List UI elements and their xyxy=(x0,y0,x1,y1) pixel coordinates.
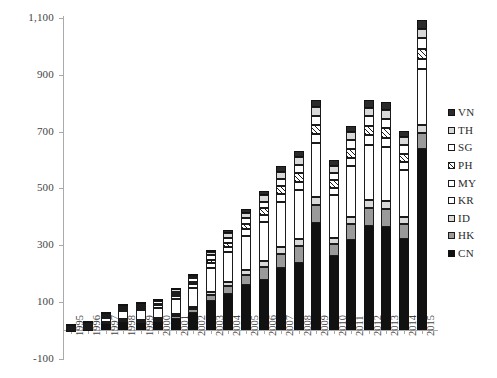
bar-segment-kr xyxy=(381,147,391,201)
bar-segment-ph xyxy=(241,224,251,229)
bar-segment-th xyxy=(294,157,304,165)
legend-item-hk[interactable]: HK xyxy=(448,227,497,245)
bar-column xyxy=(83,0,93,378)
bar-segment-th xyxy=(206,252,216,256)
bar-segment-hk xyxy=(206,295,216,301)
bar-segment-kr xyxy=(311,143,321,197)
x-tick-label: 2015 xyxy=(426,296,436,336)
bar-segment-id xyxy=(241,270,251,275)
bar-segment-hk xyxy=(241,275,251,285)
bar-segment-th xyxy=(311,107,321,116)
bar-segment-id xyxy=(381,201,391,209)
bar-segment-ph xyxy=(364,126,374,135)
bar-segment-vn xyxy=(171,288,181,290)
legend-item-sg[interactable]: SG xyxy=(448,139,497,157)
y-tick-mark xyxy=(59,18,64,19)
bar-segment-ph xyxy=(399,154,409,162)
bar-segment-id xyxy=(364,200,374,208)
bar-segment-th xyxy=(241,213,251,218)
legend-item-id[interactable]: ID xyxy=(448,210,497,228)
legend-item-kr[interactable]: KR xyxy=(448,192,497,210)
bar-column xyxy=(381,0,391,378)
bar-segment-kr xyxy=(171,299,181,314)
bar-segment-sg xyxy=(329,173,339,181)
bar-segment-cn xyxy=(136,323,146,330)
bar-segment-kr xyxy=(206,268,216,292)
y-tick-mark xyxy=(59,132,64,133)
bar-segment-my xyxy=(223,247,233,252)
bar-segment-vn xyxy=(83,321,93,323)
bar-segment-id xyxy=(417,125,427,132)
bar-segment-sg xyxy=(171,292,181,295)
bar-segment-vn xyxy=(364,100,374,108)
bar-segment-vn xyxy=(118,304,128,306)
bar-segment-my xyxy=(311,134,321,143)
bar-segment-ph xyxy=(311,125,321,134)
bar-column xyxy=(346,0,356,378)
bar-segment-cn xyxy=(399,239,409,330)
bar-segment-cn xyxy=(241,285,251,330)
bar-segment-id xyxy=(294,239,304,246)
bar-segment-sg xyxy=(188,278,198,281)
bar-segment-kr xyxy=(294,190,304,239)
bar-segment-sg xyxy=(399,145,409,154)
bar-segment-cn xyxy=(259,280,269,331)
bar-segment-my xyxy=(381,138,391,147)
bar-segment-ph xyxy=(294,173,304,181)
legend-item-ph[interactable]: PH xyxy=(448,157,497,175)
bar-segment-id xyxy=(259,261,269,267)
legend-swatch-icon xyxy=(448,232,455,239)
bar-segment-vn xyxy=(381,102,391,110)
bar-segment-hk xyxy=(364,208,374,226)
bar-segment-vn xyxy=(346,126,356,133)
legend-label: CN xyxy=(458,248,474,259)
legend-swatch-icon xyxy=(448,180,455,187)
bar-segment-th xyxy=(381,110,391,119)
bar-segment-vn xyxy=(136,302,146,304)
bar-segment-hk xyxy=(259,267,269,279)
bar-segment-ph xyxy=(153,304,163,306)
legend-label: HK xyxy=(458,230,475,241)
bar-segment-kr xyxy=(101,318,111,322)
legend-item-th[interactable]: TH xyxy=(448,122,497,140)
bar-column xyxy=(223,0,233,378)
bar-segment-ph xyxy=(329,180,339,187)
legend-swatch-icon xyxy=(448,250,455,257)
bar-segment-hk xyxy=(294,246,304,262)
bar-column xyxy=(329,0,339,378)
legend-item-vn[interactable]: VN xyxy=(448,104,497,122)
bar-segment-my xyxy=(329,188,339,195)
bar-segment-th xyxy=(223,233,233,238)
bar-segment-kr xyxy=(136,310,146,320)
legend-item-my[interactable]: MY xyxy=(448,174,497,192)
bar-column xyxy=(101,0,111,378)
bar-segment-cn xyxy=(171,319,181,330)
bar-column xyxy=(364,0,374,378)
bar-column xyxy=(206,0,216,378)
bar-segment-my xyxy=(294,182,304,191)
bar-segment-sg xyxy=(259,202,269,209)
bar-segment-id xyxy=(223,282,233,286)
bar-segment-ph xyxy=(417,49,427,59)
bar-segment-my xyxy=(364,135,374,144)
bar-segment-ph xyxy=(381,128,391,137)
bar-segment-th xyxy=(188,276,198,279)
bar-segment-id xyxy=(346,217,356,224)
legend-item-cn[interactable]: CN xyxy=(448,245,497,263)
bar-segment-th xyxy=(417,29,427,39)
bar-column xyxy=(294,0,304,378)
bar-segment-ph xyxy=(136,307,146,309)
bar-segment-kr xyxy=(364,145,374,201)
bar-segment-hk xyxy=(346,224,356,240)
bar-segment-vn xyxy=(188,274,198,276)
bar-segment-sg xyxy=(417,38,427,49)
bar-segment-my xyxy=(399,162,409,170)
y-tick-label: 900 xyxy=(12,69,54,80)
bar-segment-hk xyxy=(417,133,427,149)
bar-segment-id xyxy=(206,292,216,295)
bar-segment-cn xyxy=(364,226,374,330)
y-tick-mark xyxy=(59,245,64,246)
legend-label: TH xyxy=(458,125,473,136)
bar-segment-cn xyxy=(294,263,304,330)
legend-swatch-icon xyxy=(448,162,455,169)
